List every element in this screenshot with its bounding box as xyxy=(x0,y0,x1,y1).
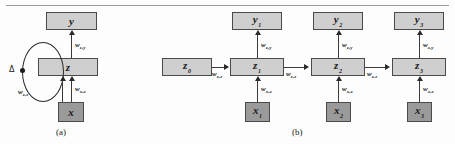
weight-zz-2: wz,z xyxy=(286,70,296,79)
node-z2-base: z xyxy=(334,59,338,71)
weight-zy-2-sub: z,y xyxy=(347,45,353,50)
node-y2-label: y2 xyxy=(334,14,342,27)
node-z1: z1 xyxy=(230,58,284,76)
node-z0-base: z xyxy=(183,59,187,71)
weight-zy-1: wz,y xyxy=(261,41,272,50)
node-z1-sub: 1 xyxy=(258,68,261,74)
weight-xz-2-sub: x,z xyxy=(347,89,353,94)
node-x1-base: x xyxy=(253,104,259,116)
weight-zz-a: wz,z xyxy=(18,88,28,97)
weight-zz-2-sub: z,z xyxy=(291,74,296,79)
weight-zz-3: wz,z xyxy=(367,70,377,79)
loop-return-a-arrow xyxy=(60,76,66,81)
edge-z2-to-y2 xyxy=(338,34,339,58)
node-y3-base: y xyxy=(415,13,420,25)
edge-z-to-y-a xyxy=(71,34,72,58)
edge-z-to-y-a-arrow xyxy=(69,30,75,35)
node-z3: z3 xyxy=(392,58,446,76)
edge-x-to-z-a-arrow xyxy=(69,76,75,81)
weight-xz-a-sub: x,z xyxy=(80,89,86,94)
weight-zy-a: wz,y xyxy=(75,41,86,50)
node-z3-sub: 3 xyxy=(420,68,423,74)
node-z2-sub: 2 xyxy=(339,68,342,74)
node-z-a-label: z xyxy=(66,62,70,73)
panel-caption-b: (b) xyxy=(292,127,303,137)
node-x1: x1 xyxy=(245,102,270,122)
node-z0: z0 xyxy=(162,58,212,76)
edge-x3-to-z3 xyxy=(419,80,420,102)
weight-xz-3: wx,z xyxy=(423,85,434,94)
edge-z3-to-y3 xyxy=(419,34,420,58)
node-x1-label: x1 xyxy=(253,105,262,118)
edge-x3-to-z3-arrow xyxy=(417,76,423,81)
edge-x1-to-z1-arrow xyxy=(255,76,261,81)
edge-x2-to-z2 xyxy=(338,80,339,102)
node-y3-sub: 3 xyxy=(420,22,423,28)
weight-xz-3-sub: x,z xyxy=(428,89,434,94)
edge-x1-to-z1 xyxy=(257,80,258,102)
edge-z2-to-z3-arrow xyxy=(385,64,390,70)
edge-z0-to-z1-arrow xyxy=(224,64,229,70)
node-x-a: x xyxy=(58,102,84,122)
recurrent-loop-a xyxy=(22,42,64,102)
node-z3-label: z3 xyxy=(415,60,423,73)
panel-caption-a: (a) xyxy=(56,127,66,137)
node-y1-sub: 1 xyxy=(258,22,261,28)
node-x1-sub: 1 xyxy=(259,113,262,119)
node-x2-sub: 2 xyxy=(340,113,343,119)
node-y1-base: y xyxy=(253,13,258,25)
weight-xz-1-sub: x,z xyxy=(266,89,272,94)
node-x3-sub: 3 xyxy=(421,113,424,119)
weight-zz-3-sub: z,z xyxy=(372,74,377,79)
edge-z2-to-y2-arrow xyxy=(336,30,342,35)
edge-x2-to-z2-arrow xyxy=(336,76,342,81)
node-z3-base: z xyxy=(415,59,419,71)
node-z0-sub: 0 xyxy=(188,68,191,74)
node-x2-base: x xyxy=(334,104,340,116)
node-z1-base: z xyxy=(253,59,257,71)
weight-zy-a-sub: z,y xyxy=(80,45,86,50)
node-y2-base: y xyxy=(334,13,339,25)
weight-zy-3: wz,y xyxy=(423,41,434,50)
weight-xz-a: wx,z xyxy=(75,85,86,94)
node-y1-label: y1 xyxy=(253,14,261,27)
node-x2-label: x2 xyxy=(334,105,343,118)
loop-return-a xyxy=(62,80,63,102)
edge-x-to-z-a xyxy=(71,80,72,102)
weight-zy-1-sub: z,y xyxy=(266,45,272,50)
edge-z1-to-z2 xyxy=(284,67,306,68)
node-z2-label: z2 xyxy=(334,60,342,73)
top-rule xyxy=(6,5,449,6)
edge-z1-to-z2-arrow xyxy=(304,64,309,70)
node-z1-label: z1 xyxy=(253,60,261,73)
node-y-a-label: y xyxy=(69,16,74,27)
weight-xz-1: wx,z xyxy=(261,85,272,94)
edge-z3-to-y3-arrow xyxy=(417,30,423,35)
delay-node-a xyxy=(20,68,25,73)
node-y1: y1 xyxy=(232,12,282,30)
node-y-a: y xyxy=(46,12,97,30)
weight-zz-1: wz,z xyxy=(212,70,222,79)
node-x2: x2 xyxy=(326,102,351,122)
node-x3-label: x3 xyxy=(415,105,424,118)
edge-z1-to-y1-arrow xyxy=(255,30,261,35)
weight-zz-1-sub: z,z xyxy=(217,74,222,79)
weight-zz-a-sub: z,z xyxy=(23,92,28,97)
node-x3-base: x xyxy=(415,104,421,116)
edge-z1-to-y1 xyxy=(257,34,258,58)
node-z2: z2 xyxy=(311,58,365,76)
node-y2: y2 xyxy=(313,12,363,30)
node-y3-label: y3 xyxy=(415,14,423,27)
weight-zy-2: wz,y xyxy=(342,41,353,50)
node-z0-label: z0 xyxy=(183,60,191,73)
edge-z2-to-z3 xyxy=(365,67,387,68)
node-y3: y3 xyxy=(394,12,444,30)
delay-symbol-a: Δ xyxy=(9,65,14,74)
node-x-a-label: x xyxy=(68,107,74,118)
weight-xz-2: wx,z xyxy=(342,85,353,94)
node-x3: x3 xyxy=(407,102,432,122)
figure-canvas: y wz,y z wx,z x Δ wz,z (a) y1 wz,y y2 wz… xyxy=(0,0,455,144)
node-y2-sub: 2 xyxy=(339,22,342,28)
weight-zy-3-sub: z,y xyxy=(428,45,434,50)
